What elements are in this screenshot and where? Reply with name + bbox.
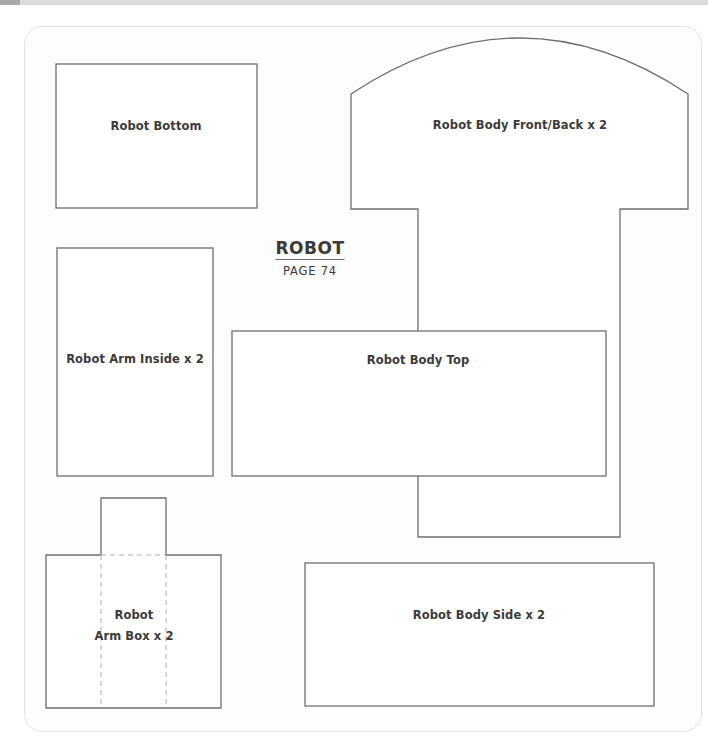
robot-arm-box-piece [46, 498, 221, 708]
page-title: ROBOT [275, 238, 344, 260]
robot-body-side-label: Robot Body Side x 2 [413, 608, 545, 622]
robot-arm-box-label-line2: Arm Box x 2 [94, 629, 173, 643]
robot-arm-inside-label: Robot Arm Inside x 2 [66, 352, 204, 366]
robot-body-top-label: Robot Body Top [367, 353, 470, 367]
robot-bottom-piece [56, 64, 257, 208]
page-title-block: ROBOT PAGE 74 [275, 238, 344, 278]
robot-body-side-piece [305, 563, 654, 706]
page-number: PAGE 74 [275, 264, 344, 278]
robot-bottom-label: Robot Bottom [110, 119, 201, 133]
robot-arm-box-label-line1: Robot [115, 608, 154, 622]
robot-body-front-back-label: Robot Body Front/Back x 2 [433, 118, 607, 132]
